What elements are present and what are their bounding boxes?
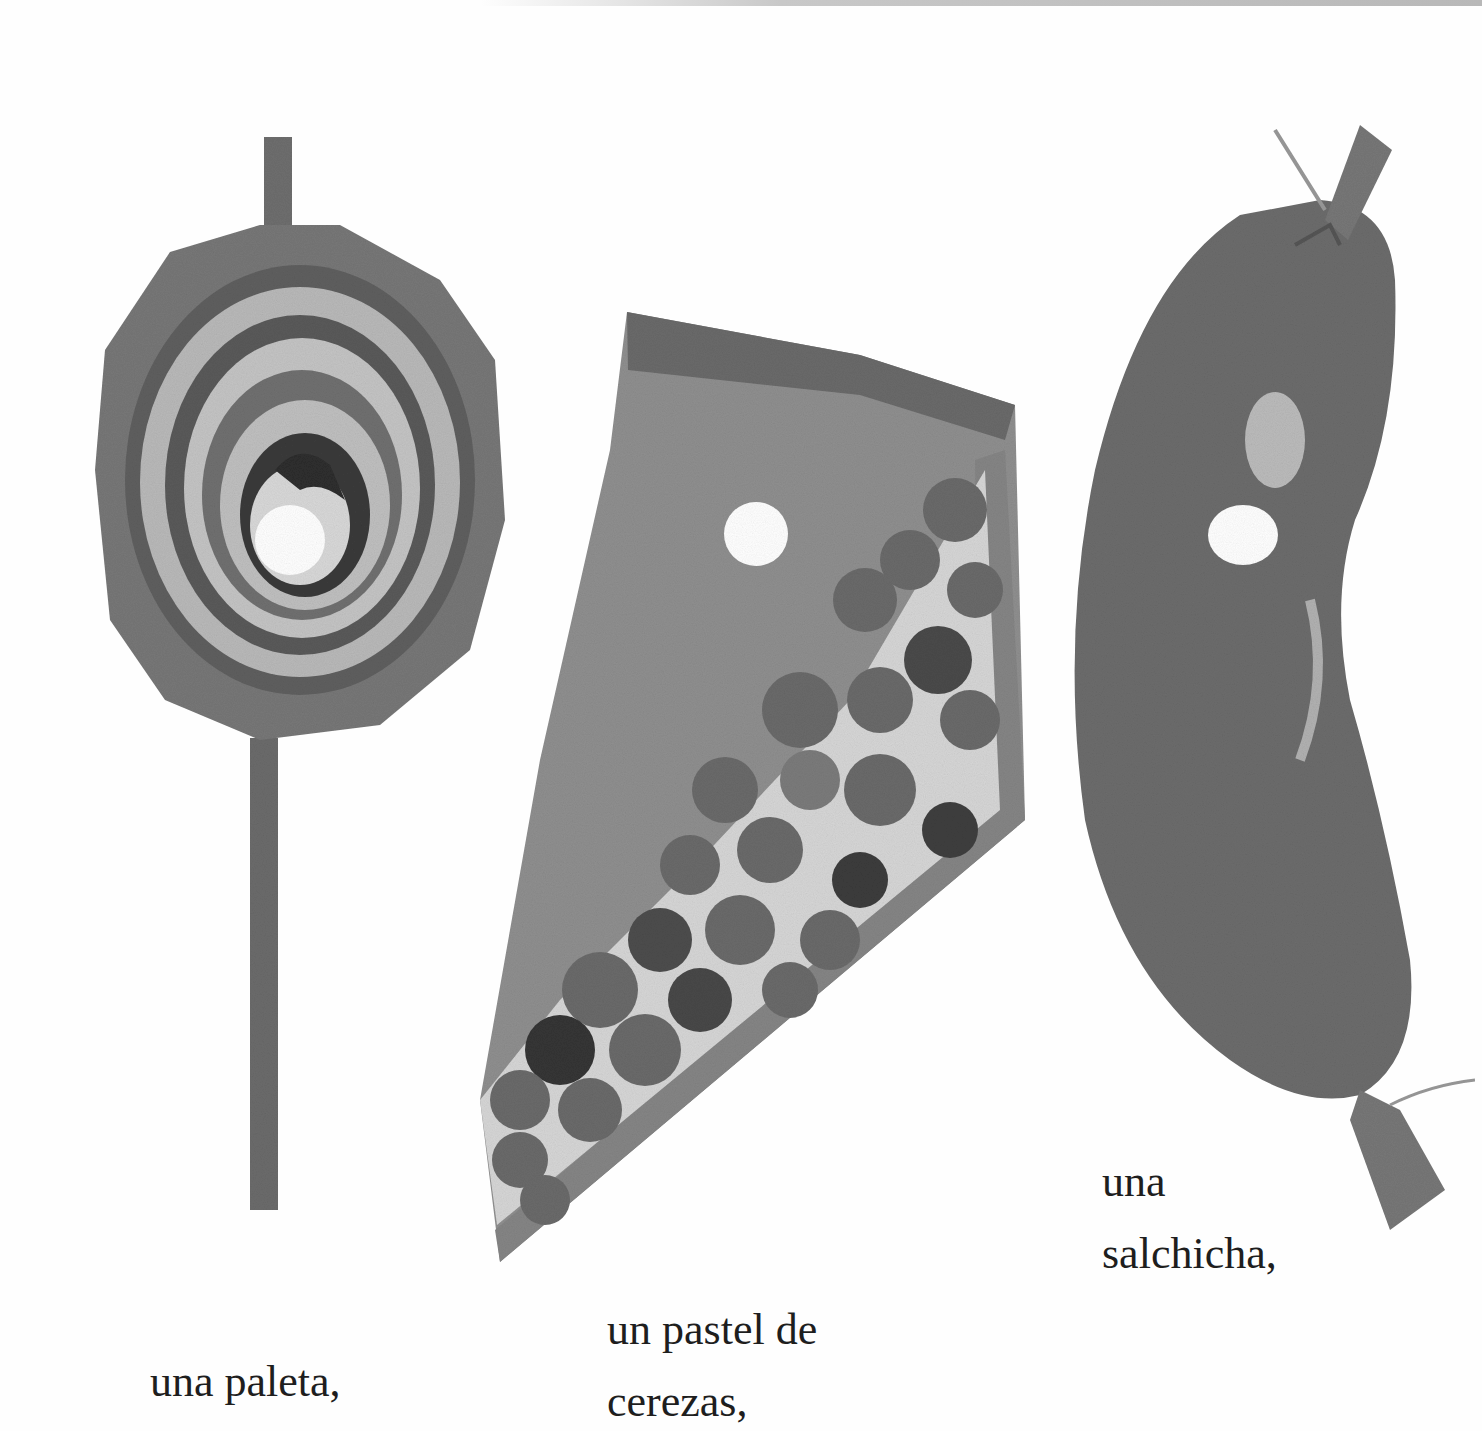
caption-line: una paleta, (150, 1346, 341, 1418)
caption-sausage: una salchicha, (1102, 1146, 1277, 1290)
caption-line: un pastel de (607, 1294, 817, 1366)
caption-line: una (1102, 1146, 1277, 1218)
caption-lollipop: una paleta, (150, 1346, 341, 1418)
caption-cherry-pie: un pastel de cerezas, (607, 1294, 817, 1431)
cherry-pie-illustration (480, 312, 1025, 1262)
caption-line: salchicha, (1102, 1218, 1277, 1290)
caption-line: cerezas, (607, 1366, 817, 1431)
sausage-illustration (1075, 125, 1475, 1230)
book-page: una paleta, un pastel de cerezas, una sa… (0, 0, 1482, 1431)
lollipop-illustration (95, 137, 505, 1210)
